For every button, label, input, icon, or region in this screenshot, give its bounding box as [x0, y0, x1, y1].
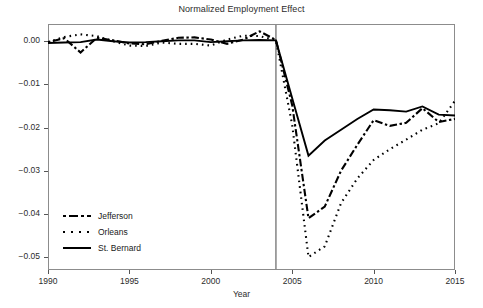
- x-tick-mark: [292, 270, 293, 274]
- y-tick-label: −0.04: [0, 208, 40, 218]
- y-tick-mark: [44, 214, 48, 215]
- x-tick-mark: [374, 270, 375, 274]
- y-tick-label: −0.02: [0, 122, 40, 132]
- x-tick-label: 1990: [28, 276, 68, 286]
- y-tick-mark: [44, 128, 48, 129]
- chart-figure: Normalized Employment Effect 0.00−0.01−0…: [0, 0, 483, 308]
- chart-title: Normalized Employment Effect: [0, 4, 483, 14]
- x-axis-title: Year: [0, 289, 483, 299]
- x-tick-label: 2000: [191, 276, 231, 286]
- y-tick-mark: [44, 41, 48, 42]
- y-tick-mark: [44, 84, 48, 85]
- legend-swatch-solid: [62, 243, 92, 253]
- legend-item-orleans: Orleans: [62, 224, 187, 240]
- legend-swatch-dashdot: [62, 211, 92, 221]
- legend-label: St. Bernard: [98, 243, 141, 253]
- legend-label: Orleans: [98, 227, 128, 237]
- chart-legend: Jefferson Orleans St. Bernard: [62, 208, 187, 256]
- y-tick-mark: [44, 257, 48, 258]
- y-tick-label: −0.01: [0, 78, 40, 88]
- x-tick-label: 2005: [272, 276, 312, 286]
- x-tick-mark: [455, 270, 456, 274]
- x-tick-mark: [211, 270, 212, 274]
- y-tick-mark: [44, 171, 48, 172]
- series-line-st-bernard: [48, 40, 455, 156]
- y-tick-label: −0.05: [0, 251, 40, 261]
- x-tick-mark: [48, 270, 49, 274]
- x-tick-label: 2010: [354, 276, 394, 286]
- legend-swatch-dotted: [62, 227, 92, 237]
- legend-item-jefferson: Jefferson: [62, 208, 187, 224]
- y-tick-label: 0.00: [0, 35, 40, 45]
- x-tick-label: 2015: [435, 276, 475, 286]
- legend-label: Jefferson: [98, 211, 133, 221]
- y-tick-label: −0.03: [0, 165, 40, 175]
- legend-item-st-bernard: St. Bernard: [62, 240, 187, 256]
- series-line-jefferson: [48, 31, 455, 218]
- x-tick-label: 1995: [109, 276, 149, 286]
- x-tick-mark: [129, 270, 130, 274]
